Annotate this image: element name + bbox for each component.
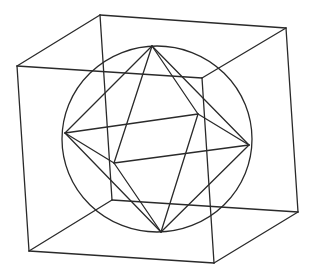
octahedron-edge-left-back (65, 114, 198, 133)
cube-edge-back_top_right-back_bottom_right (286, 28, 298, 212)
octahedron-edge-top-right (152, 46, 249, 145)
cube-edge-back_top_left-back_bottom_left (100, 15, 112, 200)
cube-edge-back_bottom_left-front_bottom_left (29, 200, 112, 251)
octahedron-edge-top-front (114, 46, 152, 163)
cube-edge-back_bottom_right-front_bottom_right (214, 212, 298, 263)
cube-edge-back_top_left-front_top_left (17, 15, 100, 66)
cube-edge-back_top_left-back_top_right (100, 15, 286, 28)
octahedron-edge-top-back (152, 46, 198, 114)
cube-sphere-octahedron-diagram (0, 0, 312, 280)
octahedron-wireframe (65, 46, 249, 232)
cube-edge-front_top_left-front_bottom_left (17, 66, 29, 251)
inscribed-sphere-circle (62, 46, 252, 232)
octahedron-edge-right-front (114, 145, 249, 163)
octahedron-edge-bottom-front (114, 163, 161, 232)
cube-edge-front_top_right-front_bottom_right (202, 78, 214, 263)
octahedron-edge-bottom-left (65, 133, 161, 232)
cube-edge-back_top_right-front_top_right (202, 28, 286, 78)
cube-edge-front_bottom_left-front_bottom_right (29, 251, 214, 263)
